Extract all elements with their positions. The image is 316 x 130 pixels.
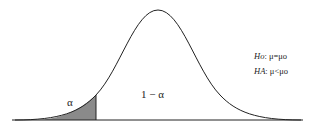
h0-text: : μ=μo: [264, 51, 287, 61]
ha-symbol: HA: [254, 66, 265, 76]
null-hypothesis: Ho: μ=μo: [254, 51, 287, 61]
h0-symbol: Ho: [254, 51, 264, 61]
alternative-hypothesis: HA: μ<μo: [254, 66, 288, 76]
distribution-plot: [0, 0, 316, 130]
normal-curve: [15, 10, 301, 120]
one-minus-alpha-label: 1 − α: [141, 88, 164, 100]
ha-text: : μ<μo: [265, 66, 288, 76]
alpha-label: α: [67, 96, 73, 108]
